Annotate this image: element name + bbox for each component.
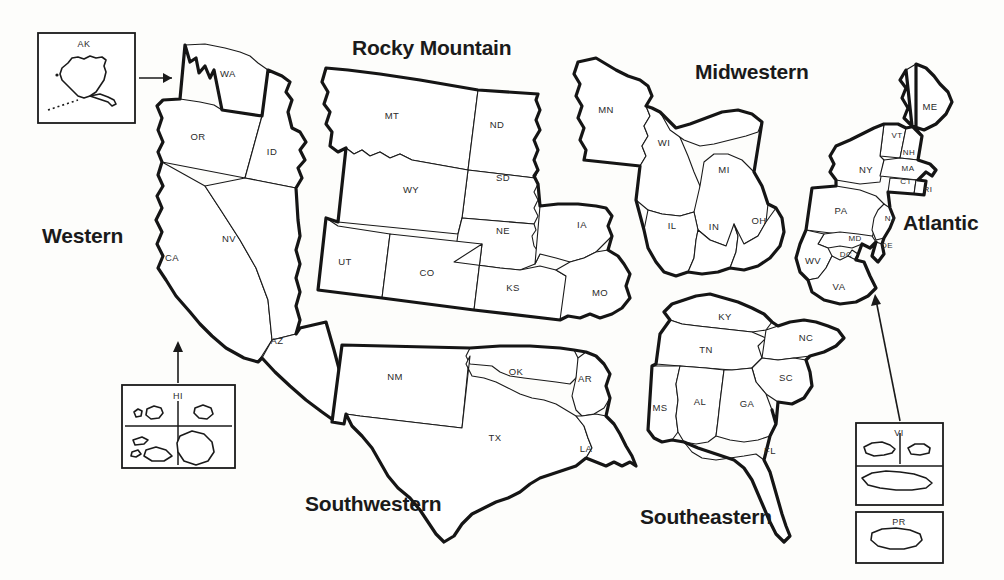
state-label-MT: MT [385, 110, 400, 121]
region-midwestern[interactable] [574, 58, 784, 276]
region-label-atlantic: Atlantic [903, 211, 978, 235]
state-label-CT: CT [900, 177, 911, 186]
state-label-AZ: AZ [271, 335, 284, 346]
inset-shape-st-thomas [908, 444, 930, 455]
inset-label-ak: AK [78, 39, 91, 49]
state-label-CO: CO [419, 267, 434, 278]
state-label-UT: UT [338, 256, 351, 267]
state-label-IL: IL [668, 220, 677, 231]
inset-shape-niihau [134, 409, 142, 417]
state-shape-ND[interactable] [468, 90, 540, 178]
state-label-AR: AR [578, 373, 592, 384]
state-label-ME: ME [922, 101, 937, 112]
state-label-MD: MD [848, 234, 861, 243]
state-label-DC: DC [840, 250, 852, 259]
state-label-MA: MA [902, 164, 915, 173]
arrow-head-vi [871, 294, 881, 306]
inset-label-pr: PR [892, 517, 905, 527]
region-label-southeastern: Southeastern [640, 505, 772, 529]
state-label-NM: NM [387, 371, 403, 382]
state-label-WY: WY [403, 184, 419, 195]
state-label-KY: KY [718, 311, 732, 322]
state-label-PA: PA [835, 205, 848, 216]
state-label-IA: IA [577, 219, 587, 230]
state-label-VA: VA [833, 281, 846, 292]
state-label-MS: MS [652, 402, 667, 413]
state-label-NY: NY [859, 164, 873, 175]
state-shape-UT[interactable] [318, 218, 390, 298]
inset-shape-oahu [194, 405, 213, 419]
region-label-western: Western [42, 224, 123, 248]
region-label-midwestern: Midwestern [695, 60, 809, 84]
state-label-NC: NC [799, 332, 814, 343]
state-label-SD: SD [496, 172, 510, 183]
inset-label-hi: HI [173, 391, 183, 401]
state-label-CA: CA [165, 252, 179, 263]
state-label-MO: MO [592, 287, 608, 298]
inset-alaska[interactable]: AK [38, 33, 172, 123]
state-label-VT: VT [891, 131, 902, 140]
state-label-WA: WA [220, 68, 236, 79]
state-label-RI: RI [924, 185, 933, 194]
inset-shape-puerto-rico [871, 528, 922, 549]
state-shape-AR[interactable] [572, 352, 610, 416]
state-label-SC: SC [779, 372, 793, 383]
state-label-DE: DE [881, 241, 893, 250]
inset-dot-alaska-island [55, 73, 58, 76]
state-label-IN: IN [709, 221, 719, 232]
state-label-TX: TX [489, 432, 502, 443]
state-label-ID: ID [267, 146, 277, 157]
us-regions-map: AK HI [0, 0, 1004, 580]
inset-virgin-islands[interactable]: VI [856, 294, 943, 505]
region-western[interactable] [156, 44, 348, 422]
inset-shape-kauai [146, 406, 163, 419]
state-label-OH: OH [751, 215, 766, 226]
state-label-KS: KS [506, 282, 519, 293]
state-shape-NY[interactable] [830, 124, 884, 184]
state-label-AL: AL [694, 396, 706, 407]
state-label-LA: LA [580, 443, 593, 454]
state-label-MN: MN [598, 104, 614, 115]
state-label-OK: OK [509, 366, 524, 377]
region-label-rocky: Rocky Mountain [352, 36, 511, 60]
arrow-head-hi [173, 341, 183, 352]
state-label-NJ: NJ [885, 214, 896, 223]
state-label-NV: NV [222, 233, 236, 244]
state-label-GA: GA [740, 398, 755, 409]
arrow-head-ak [163, 73, 172, 83]
region-label-southwestern: Southwestern [305, 492, 441, 516]
state-label-TN: TN [699, 344, 712, 355]
arrow-line-vi [876, 300, 900, 421]
state-label-FL: FL [764, 445, 776, 456]
map-canvas: AK HI [0, 0, 1004, 580]
inset-label-vi: VI [894, 428, 903, 438]
inset-puerto-rico[interactable]: PR [856, 512, 943, 563]
state-label-WV: WV [805, 255, 821, 266]
state-label-NE: NE [496, 225, 510, 236]
state-label-NH: NH [903, 148, 915, 157]
state-label-ND: ND [490, 119, 505, 130]
state-label-MI: MI [718, 164, 729, 175]
state-label-WI: WI [658, 137, 670, 148]
inset-hawaii[interactable]: HI [122, 341, 235, 468]
state-label-OR: OR [190, 131, 205, 142]
